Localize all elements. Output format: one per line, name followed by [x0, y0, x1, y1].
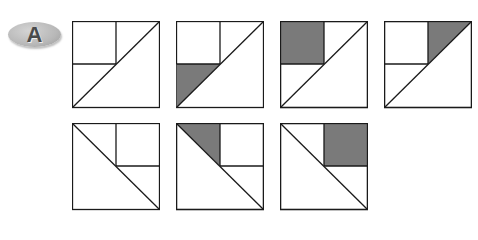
figure-6 [176, 123, 264, 211]
figure-7 [280, 123, 368, 211]
badge-letter: A [27, 24, 43, 46]
figure-3 [280, 21, 368, 109]
figure-1 [72, 21, 160, 109]
label-badge-a: A [8, 22, 61, 47]
figure-2 [176, 21, 264, 109]
figure-5 [72, 123, 160, 211]
shaded-region [324, 124, 368, 167]
figure-4 [384, 21, 472, 109]
shaded-region [281, 22, 325, 65]
